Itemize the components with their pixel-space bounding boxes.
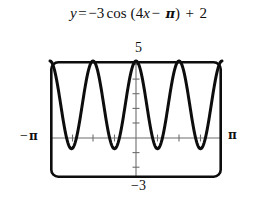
x-min-pi-symbol: π [29,129,38,143]
equation-function-cos: cos [104,5,126,21]
equation-plus: + [184,5,196,21]
equation-amplitude-sign: − [88,5,97,21]
equation-minus: − [150,5,162,21]
equation-phase-pi: π [165,6,175,21]
equation-vertical-shift: 2 [199,5,207,21]
y-min-label: −3 [0,178,277,194]
x-min-minus-sign: − [20,128,29,143]
x-max-label: π [228,128,237,142]
equation-lhs: y [70,5,77,21]
equation-equals: = [77,5,89,21]
equation-close-paren: ) [175,5,180,21]
graph-figure: y=−3cos (4x− π) + 2 5 [0,0,277,207]
x-min-label: −π [20,128,38,144]
equation-title: y=−3cos (4x− π) + 2 [0,5,277,22]
plot-area [50,61,222,178]
y-max-label: 5 [0,40,277,56]
